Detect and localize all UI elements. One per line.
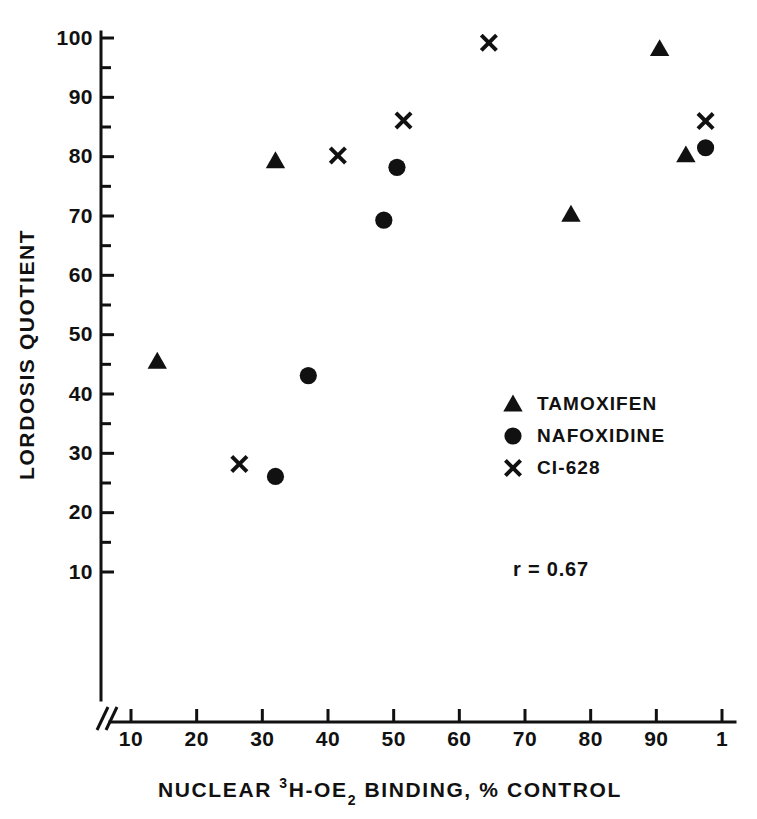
legend-circle-circle-marker xyxy=(504,427,521,444)
plot-canvas: 102030405060708090100 102030405060708090… xyxy=(0,0,757,819)
y-tick-label-group: 102030405060708090100 xyxy=(56,26,93,583)
legend-x-x-marker xyxy=(505,460,520,475)
x-tick-label: 40 xyxy=(316,727,340,750)
y-tick-label: 60 xyxy=(69,263,93,286)
legend-triangle-triangle-marker xyxy=(503,395,522,412)
legend-label: CI-628 xyxy=(537,457,601,478)
y-tick-label: 70 xyxy=(69,204,93,227)
x-tick-label: 80 xyxy=(578,727,602,750)
data-point-circle-marker xyxy=(300,367,317,384)
data-point-circle-marker xyxy=(267,468,284,485)
y-tick-group xyxy=(101,38,114,572)
series-tamoxifen xyxy=(148,39,696,369)
x-tick-group xyxy=(131,709,722,722)
y-tick-label: 30 xyxy=(69,441,93,464)
y-tick-label: 90 xyxy=(69,85,93,108)
y-axis-title: LORDOSIS QUOTIENT xyxy=(15,229,38,480)
x-axis-title: NUCLEAR 3H-OE2 BINDING, % CONTROL xyxy=(158,775,622,808)
x-tick-label: 20 xyxy=(184,727,208,750)
y-axis: 102030405060708090100 xyxy=(56,26,114,700)
data-point-triangle-marker xyxy=(266,151,285,168)
y-tick-label: 20 xyxy=(69,500,93,523)
data-point-x-marker xyxy=(232,456,247,471)
data-point-triangle-marker xyxy=(650,39,669,56)
data-point-circle-marker xyxy=(388,159,405,176)
x-tick-label: 1 xyxy=(716,727,728,750)
correlation-annotation: r = 0.67 xyxy=(513,558,589,580)
data-point-triangle-marker xyxy=(676,145,695,162)
x-tick-label: 10 xyxy=(119,727,143,750)
legend-label: TAMOXIFEN xyxy=(537,393,657,414)
y-tick-label: 50 xyxy=(69,322,93,345)
scatter-plot-figure: 102030405060708090100 102030405060708090… xyxy=(0,0,757,819)
x-tick-label: 50 xyxy=(381,727,405,750)
data-point-triangle-marker xyxy=(148,352,167,369)
x-tick-label: 30 xyxy=(250,727,274,750)
x-tick-label-group: 1020304050607080901 xyxy=(119,727,728,750)
data-point-x-marker xyxy=(698,113,713,128)
y-tick-label: 10 xyxy=(69,560,93,583)
legend-label: NAFOXIDINE xyxy=(537,425,665,446)
data-point-circle-marker xyxy=(375,212,392,229)
x-tick-label: 90 xyxy=(644,727,668,750)
legend: TAMOXIFENNAFOXIDINECI-628 xyxy=(503,393,665,478)
data-point-x-marker xyxy=(481,35,496,50)
data-point-triangle-marker xyxy=(561,205,580,222)
data-point-circle-marker xyxy=(697,139,714,156)
y-tick-label: 80 xyxy=(69,144,93,167)
y-tick-label: 100 xyxy=(56,26,93,49)
x-tick-label: 60 xyxy=(447,727,471,750)
data-marker-group xyxy=(148,35,715,485)
axis-break-marks xyxy=(97,707,117,730)
y-tick-label: 40 xyxy=(69,382,93,405)
data-point-x-marker xyxy=(396,113,411,128)
data-point-x-marker xyxy=(330,148,345,163)
x-axis: 1020304050607080901 xyxy=(110,709,735,750)
x-tick-label: 70 xyxy=(513,727,537,750)
